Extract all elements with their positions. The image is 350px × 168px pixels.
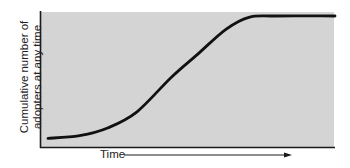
y-axis-label: Cumulative number of adopters at any tim… — [18, 2, 44, 152]
x-axis-label: Time — [100, 148, 125, 160]
y-axis-label-line-2: adopters at any time — [31, 2, 44, 152]
s-curve-chart — [0, 0, 350, 168]
plot-area — [40, 12, 334, 147]
time-arrow-head — [284, 153, 292, 158]
y-axis-label-line-1: Cumulative number of — [18, 2, 31, 152]
